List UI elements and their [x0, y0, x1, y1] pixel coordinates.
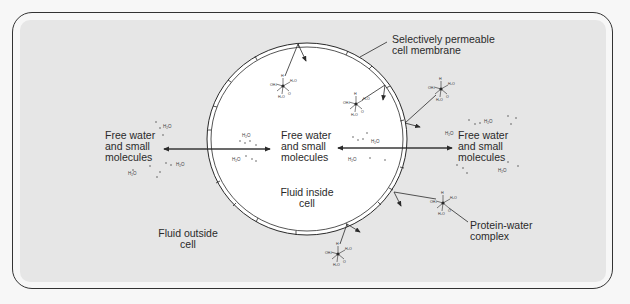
svg-text:H₂O: H₂O	[163, 124, 172, 129]
label-line: complex	[470, 231, 532, 242]
fluid-outside-label: Fluid outside cell	[148, 228, 228, 250]
svg-text:H₂O: H₂O	[484, 119, 493, 124]
svg-text:H₂O: H₂O	[445, 131, 454, 136]
label-line: molecules	[281, 152, 331, 163]
outside-free-water-label-right: Free water and small molecules	[458, 130, 508, 163]
svg-text:H₂O: H₂O	[498, 168, 507, 173]
label-line: molecules	[458, 152, 508, 163]
label-line: cell	[148, 239, 228, 250]
svg-text:H₂O: H₂O	[232, 157, 241, 162]
fluid-inside-label: Fluid inside cell	[270, 187, 344, 209]
svg-text:H₂O: H₂O	[128, 171, 137, 176]
inside-free-water-label: Free water and small molecules	[281, 130, 331, 163]
svg-text:H₂O: H₂O	[371, 139, 380, 144]
svg-text:H₂O: H₂O	[242, 133, 251, 138]
svg-text:H₂O: H₂O	[176, 162, 185, 167]
outside-free-water-label-left: Free water and small molecules	[105, 130, 155, 163]
membrane-label-line2: cell membrane	[392, 45, 495, 56]
svg-text:H₂O: H₂O	[348, 157, 357, 162]
label-line: cell	[270, 198, 344, 209]
membrane-label: Selectively permeable cell membrane	[392, 34, 495, 56]
label-line: molecules	[105, 152, 155, 163]
protein-water-complex-label: Protein-water complex	[470, 220, 532, 242]
membrane-leader-line	[360, 42, 387, 57]
